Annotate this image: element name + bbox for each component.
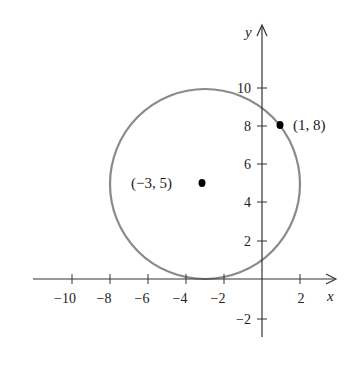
center-point-label: (−3, 5) — [131, 175, 172, 192]
point-on-circle — [277, 121, 284, 129]
x-tick-label: −2 — [211, 291, 226, 306]
x-tick-labels: −10 −8 −6 −4 −2 2 — [54, 291, 304, 306]
x-axis: x −10 −8 −6 −4 −2 2 — [33, 274, 336, 306]
point-on-circle-label: (1, 8) — [293, 117, 326, 134]
y-tick-label: 2 — [244, 234, 251, 249]
x-tick-label: −4 — [173, 291, 188, 306]
x-tick-label: −8 — [97, 291, 112, 306]
y-tick-label: 10 — [237, 81, 251, 96]
x-axis-label: x — [326, 288, 334, 304]
y-axis: y 10 8 6 4 2 −2 — [236, 24, 267, 337]
y-axis-label: y — [243, 24, 252, 40]
y-tick-labels: 10 8 6 4 2 −2 — [236, 81, 251, 327]
y-tick-label: 8 — [244, 119, 251, 134]
y-tick-label: 6 — [244, 157, 251, 172]
y-tick-label: 4 — [244, 195, 251, 210]
center-point — [199, 179, 206, 187]
x-tick-label: 2 — [298, 291, 305, 306]
coordinate-plane: x −10 −8 −6 −4 −2 2 y — [0, 0, 363, 379]
y-tick-label: −2 — [236, 312, 251, 327]
x-tick-label: −10 — [54, 291, 76, 306]
x-tick-label: −6 — [135, 291, 150, 306]
